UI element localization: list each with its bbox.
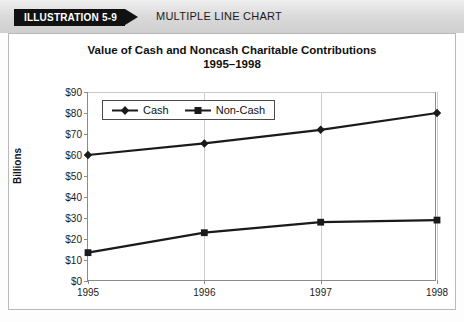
y-axis-title: Billions [12,148,23,184]
data-point-marker [317,219,324,226]
x-axis-tick-label: 1996 [193,287,215,298]
chart-legend: Cash Non-Cash [102,100,275,120]
data-point-marker [201,229,208,236]
data-point-marker [316,126,324,134]
chart-title-line1: Value of Cash and Noncash Charitable Con… [88,44,377,56]
y-axis-tick-label: $30 [65,213,82,224]
x-axis-tick [437,280,438,284]
y-axis-tick-label: $20 [65,234,82,245]
legend-label-non-cash: Non-Cash [216,104,266,116]
x-axis-tick-label: 1998 [426,287,448,298]
y-axis-tick-label: $80 [65,108,82,119]
data-point-marker [433,109,441,117]
illustration-caption: MULTIPLE LINE CHART [156,10,282,22]
x-axis-tick-label: 1995 [77,287,99,298]
y-axis-tick-label: $0 [71,276,82,287]
series-line-non-cash [88,220,437,253]
y-axis-tick-label: $90 [65,87,82,98]
chart-title-line2: 1995–1998 [9,57,455,71]
x-axis-tick-label: 1997 [310,287,332,298]
y-axis-tick-label: $70 [65,129,82,140]
y-axis-tick-label: $60 [65,150,82,161]
legend-item-non-cash: Non-Cash [185,104,266,116]
y-axis-tick-label: $10 [65,255,82,266]
diamond-marker-icon [112,105,138,116]
data-point-marker [84,151,92,159]
illustration-tag-label: ILLUSTRATION 5-9 [24,12,117,23]
illustration-page: ILLUSTRATION 5-9 MULTIPLE LINE CHART Val… [0,0,464,322]
illustration-tag: ILLUSTRATION 5-9 [14,9,125,26]
data-point-marker [85,249,92,256]
chart-title: Value of Cash and Noncash Charitable Con… [9,43,455,71]
legend-item-cash: Cash [112,104,169,116]
header-band: ILLUSTRATION 5-9 MULTIPLE LINE CHART [0,0,464,33]
vertical-gridline [437,92,438,280]
tag-arrow-icon [125,9,138,25]
plot-area: $0$10$20$30$40$50$60$70$80$9019951996199… [87,92,436,281]
chart-frame: Value of Cash and Noncash Charitable Con… [8,33,456,310]
legend-label-cash: Cash [143,104,169,116]
series-layer [88,92,437,281]
y-axis-tick-label: $50 [65,171,82,182]
square-marker-icon [185,105,211,116]
data-point-marker [434,217,441,224]
data-point-marker [200,139,208,147]
y-axis-tick-label: $40 [65,192,82,203]
